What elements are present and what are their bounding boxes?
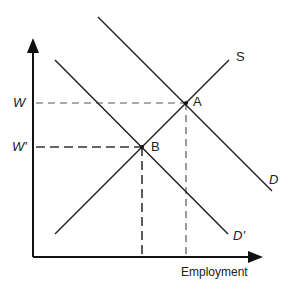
y-axis-arrow-icon (27, 38, 39, 53)
wage-w-label: W (13, 96, 25, 109)
x-axis-label: Employment (181, 266, 248, 278)
demand-curve-d-prime-label: D' (233, 229, 245, 242)
point-a-label: A (193, 95, 202, 108)
point-b-marker (140, 145, 144, 149)
demand-curve-d-label: D (269, 173, 278, 186)
wage-wprime-label: W' (12, 140, 27, 153)
supply-curve-label: S (236, 50, 245, 63)
labor-market-diagram (0, 0, 292, 292)
x-axis-arrow-icon (248, 251, 263, 263)
point-a-marker (184, 101, 188, 105)
point-b-label: B (151, 140, 160, 153)
